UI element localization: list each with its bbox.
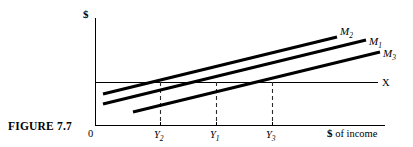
curve-m1: [103, 40, 366, 104]
figure-container: FIGURE 7.7 $ 0 $ of income X M2: [0, 0, 413, 147]
origin-label: 0: [88, 128, 93, 139]
tick-label-y2: Y2: [154, 129, 164, 143]
reference-line-label: X: [382, 77, 390, 88]
tick-label-y2-sub: 2: [160, 134, 164, 143]
curve-label-m2: M2: [339, 25, 353, 40]
curve-label-m2-sub: 2: [349, 31, 353, 40]
tick-label-y1-sub: 1: [216, 134, 220, 143]
tick-label-y3-sub: 3: [271, 134, 276, 143]
curve-label-m1: M1: [368, 35, 382, 50]
tick-label-y3: Y3: [266, 129, 276, 143]
curve-label-m1-sub: 1: [378, 41, 382, 50]
curve-m2: [103, 37, 337, 94]
x-axis-label: $ of income: [327, 127, 378, 139]
curve-label-m3: M3: [382, 47, 396, 62]
x-axis-label-text: of income: [333, 128, 378, 139]
tick-label-y1: Y1: [210, 129, 220, 143]
figure-plot-area: $ 0 $ of income X M2 M1 M3 Y2 Y1 Y3: [0, 0, 413, 147]
y-axis-label: $: [83, 8, 89, 20]
curve-label-m3-sub: 3: [391, 53, 396, 62]
